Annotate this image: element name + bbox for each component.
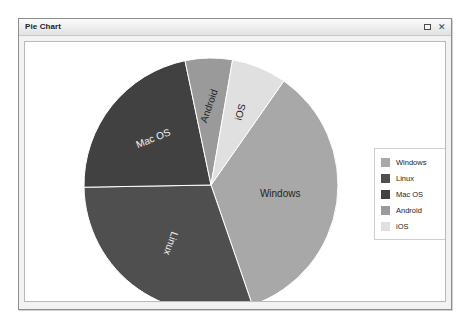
- legend-item[interactable]: Android: [375, 202, 446, 218]
- chart-canvas: WindowsLinuxMac OSAndroidiOS Windows Lin…: [24, 41, 446, 302]
- maximize-icon[interactable]: [422, 22, 433, 33]
- legend-swatch-android: [381, 206, 390, 215]
- pie-chart-window: Pie Chart ✕ WindowsLinuxMac OSAndroidiOS…: [18, 18, 452, 310]
- legend-item[interactable]: Linux: [375, 170, 446, 186]
- window-title-bar[interactable]: Pie Chart ✕: [19, 19, 451, 36]
- legend-item[interactable]: iOS: [375, 218, 446, 234]
- legend-label-linux: Linux: [396, 174, 414, 183]
- legend-swatch-linux: [381, 174, 390, 183]
- legend-label-macos: Mac OS: [396, 190, 423, 199]
- close-icon[interactable]: ✕: [436, 22, 447, 33]
- maximize-square-glyph: [424, 24, 431, 30]
- legend-swatch-macos: [381, 190, 390, 199]
- legend-item[interactable]: Mac OS: [375, 186, 446, 202]
- legend-item[interactable]: Windows: [375, 154, 446, 170]
- legend-label-windows: Windows: [396, 158, 426, 167]
- legend-swatch-ios: [381, 222, 390, 231]
- legend-label-ios: iOS: [396, 222, 409, 231]
- chart-legend: Windows Linux Mac OS Android iOS: [374, 148, 446, 240]
- legend-swatch-windows: [381, 158, 390, 167]
- pie-label-windows: Windows: [260, 188, 301, 199]
- legend-label-android: Android: [396, 206, 422, 215]
- window-title: Pie Chart: [25, 22, 61, 31]
